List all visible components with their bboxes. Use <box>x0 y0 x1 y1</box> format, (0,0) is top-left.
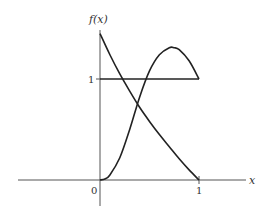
origin-label: 0 <box>91 185 97 196</box>
y-tick-label-1: 1 <box>88 74 94 85</box>
chart: f(x) x 0 1 1 <box>0 0 268 216</box>
y-axis-label: f(x) <box>88 13 108 26</box>
x-axis-label: x <box>249 174 256 187</box>
x-tick-label-1: 1 <box>196 185 202 196</box>
series-hump-curve <box>100 47 199 180</box>
